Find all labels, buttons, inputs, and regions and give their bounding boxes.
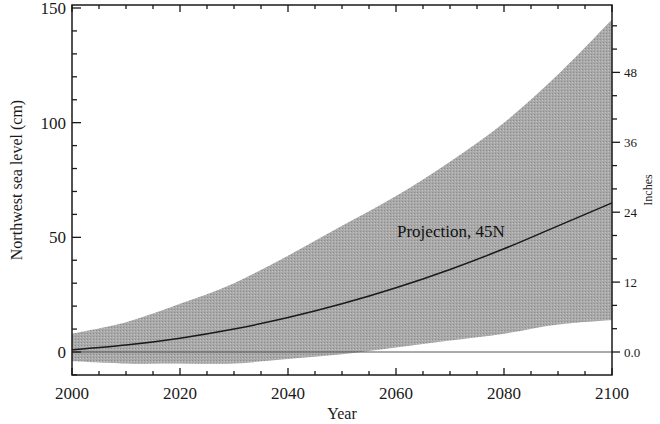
x-tick-label: 2020	[163, 384, 197, 403]
y-tick-label: 0	[58, 343, 67, 362]
x-tick-label: 2100	[595, 384, 629, 403]
x-tick-label: 2080	[487, 384, 521, 403]
uncertainty-band	[72, 19, 612, 363]
y-tick-label: 50	[49, 228, 66, 247]
y-tick-label: 150	[41, 0, 67, 18]
y2-axis-ticks: 0.012243648	[612, 26, 640, 360]
y-axis-title: Northwest sea level (cm)	[8, 100, 26, 260]
y2-tick-label: 48	[624, 65, 637, 80]
y2-tick-label: 24	[624, 205, 638, 220]
x-tick-label: 2000	[55, 384, 89, 403]
x-axis-title: Year	[327, 405, 357, 422]
x-tick-label: 2060	[379, 384, 413, 403]
y2-tick-label: 36	[624, 135, 638, 150]
y2-axis-title: Inches	[641, 174, 655, 206]
x-tick-label: 2040	[271, 384, 305, 403]
y2-tick-label: 0.0	[624, 345, 640, 360]
y-axis-ticks: 050100150	[41, 0, 82, 375]
projection-annotation: Projection, 45N	[397, 222, 505, 241]
sea-level-chart: 200020202040206020802100 050100150 0.012…	[0, 0, 660, 424]
y2-tick-label: 12	[624, 275, 637, 290]
y-tick-label: 100	[41, 114, 67, 133]
